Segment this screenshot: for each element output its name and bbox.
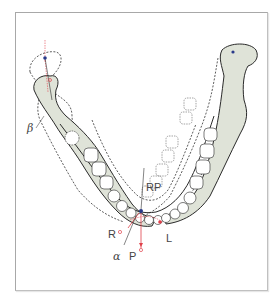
label-beta: β bbox=[27, 123, 33, 134]
label-r: R bbox=[108, 229, 116, 240]
right-condyle-point bbox=[231, 50, 234, 53]
mandible-diagram bbox=[0, 0, 277, 302]
label-p: P bbox=[129, 251, 136, 262]
label-rp: RP bbox=[146, 182, 161, 193]
label-alpha: α bbox=[113, 251, 120, 262]
label-l: L bbox=[166, 233, 172, 244]
